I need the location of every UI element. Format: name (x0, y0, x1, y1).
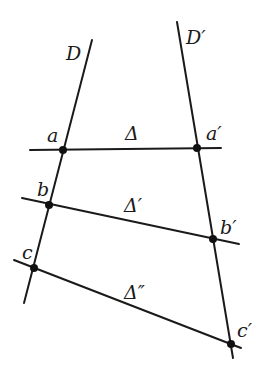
label-delta-double-prime: Δ″ (124, 283, 145, 302)
line-D (24, 40, 92, 303)
diagram-canvas: D D′ Δ Δ′ Δ″ a a′ b b′ c c′ (0, 0, 261, 380)
label-delta: Δ (125, 124, 139, 143)
label-point-b: b (37, 180, 49, 199)
label-line-d-prime: D′ (186, 28, 206, 47)
point-b-prime (209, 235, 217, 243)
line-delta-double-prime (14, 260, 241, 348)
label-point-c: c (22, 243, 33, 262)
label-point-a-prime: a′ (206, 124, 222, 143)
line-delta (30, 148, 221, 150)
point-a-prime (193, 144, 201, 152)
label-point-c-prime: c′ (237, 321, 252, 340)
point-b (45, 201, 53, 209)
point-c (30, 264, 38, 272)
label-point-b-prime: b′ (220, 218, 236, 237)
point-c-prime (227, 340, 235, 348)
point-a (59, 146, 67, 154)
line-D-prime (177, 22, 233, 358)
label-line-d: D (66, 44, 81, 63)
label-point-a: a (47, 126, 58, 145)
label-delta-prime: Δ′ (124, 196, 142, 215)
